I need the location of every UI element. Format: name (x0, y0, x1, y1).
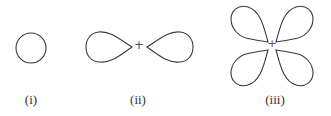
label-ii: (ii) (130, 92, 146, 108)
p-orbital-right-lobe (147, 32, 193, 62)
d-orbital-lower-left-lobe (231, 50, 268, 86)
p-orbital-left-lobe (86, 32, 132, 62)
label-iii: (iii) (265, 92, 285, 108)
d-orbital-upper-right-lobe (276, 6, 313, 42)
p-orbital-nucleus-plus: + (134, 38, 144, 52)
d-orbital-lower-right-lobe (276, 50, 313, 86)
label-i: (i) (25, 92, 37, 108)
d-orbital-nucleus-plus: + (267, 37, 276, 50)
s-orbital-circle (16, 33, 46, 63)
d-orbital-upper-left-lobe (231, 6, 268, 42)
